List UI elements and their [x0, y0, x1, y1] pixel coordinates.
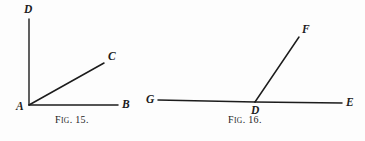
segment-AC [29, 63, 104, 105]
figure-15-caption: FIG. 15. [55, 114, 89, 125]
caption-smallcaps-16: IG [234, 116, 243, 125]
point-label-F: F [301, 23, 310, 35]
caption-suffix-16: . 16. [243, 114, 262, 125]
figure-16-group: G D E F [146, 23, 354, 116]
point-label-D-fig15: D [23, 3, 33, 15]
point-label-E: E [345, 96, 354, 108]
figure-16-caption: FIG. 16. [228, 114, 262, 125]
figure-page: A B C D G D E F FIG. 15. FIG. 16. [0, 0, 365, 141]
segment-DF [255, 37, 299, 102]
caption-suffix-15: . 15. [70, 114, 89, 125]
point-label-B: B [121, 98, 130, 110]
point-label-C: C [108, 50, 116, 62]
figure-15-group: A B C D [15, 3, 130, 112]
point-label-G: G [146, 93, 155, 105]
segment-GD [158, 100, 255, 102]
point-label-A: A [15, 100, 24, 112]
caption-smallcaps-15: IG [61, 116, 70, 125]
segment-DE [255, 102, 342, 103]
